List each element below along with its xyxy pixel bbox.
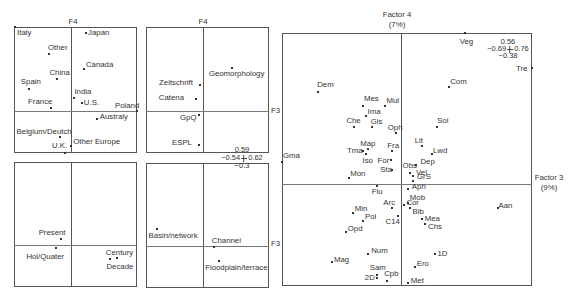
data-point-label: Basin/network	[149, 232, 198, 240]
scatter-panel-countries: ItalyOtherChinaSpainFranceJapanCanadaInd…	[14, 27, 137, 153]
data-point-marker	[531, 67, 533, 69]
data-point-label: Che	[346, 117, 360, 125]
data-point-label: Geomorphology	[209, 70, 264, 78]
data-point-marker	[281, 161, 283, 163]
data-point-label: Belgium/Deutch	[17, 129, 72, 137]
data-point-label: Spain	[21, 78, 41, 86]
data-point-marker	[213, 246, 215, 248]
data-point-marker	[109, 258, 111, 260]
data-point-marker	[367, 148, 369, 150]
data-point-marker	[464, 32, 466, 34]
data-point-marker	[412, 175, 414, 177]
data-point-marker	[317, 91, 319, 93]
data-point-marker	[391, 150, 393, 152]
data-point-label: Oph	[388, 124, 403, 132]
data-point-label: Com	[450, 78, 466, 86]
data-point-label: U.S.	[84, 100, 99, 108]
y-axis-line	[203, 27, 204, 153]
data-point-marker	[345, 231, 347, 233]
data-point-label: Soi	[437, 117, 448, 125]
range-bottom: −0.3	[221, 162, 263, 170]
data-point-marker	[403, 204, 405, 206]
data-point-marker	[199, 84, 201, 86]
data-point-marker	[407, 188, 409, 190]
data-point-label: 1D	[437, 250, 447, 258]
data-point-label: Poland	[115, 102, 139, 110]
data-point-label: Zeitschrift	[159, 79, 193, 87]
data-point-label: Catena	[159, 94, 184, 102]
data-point-label: Bib	[413, 208, 424, 216]
data-point-label: Veg	[460, 38, 473, 46]
data-point-marker	[395, 132, 397, 134]
data-point-label: Japan	[88, 29, 109, 37]
data-point-label: Mes	[364, 95, 379, 103]
data-point-marker	[60, 238, 62, 240]
data-point-marker	[198, 114, 200, 116]
y-axis-line	[203, 163, 204, 288]
data-point-label: GrS	[417, 173, 431, 181]
data-point-label: Iso	[362, 157, 372, 165]
data-point-label: Present	[39, 229, 66, 237]
data-point-marker	[414, 266, 416, 268]
data-point-label: Italy	[17, 29, 31, 37]
data-point-label: Gma	[283, 152, 300, 160]
y-axis-line	[71, 162, 72, 287]
data-point-marker	[376, 274, 378, 276]
x-axis-line	[146, 246, 269, 247]
x-axis-line	[14, 245, 137, 246]
data-point-marker	[136, 110, 138, 112]
data-point-label: Other Europe	[73, 138, 120, 146]
data-point-marker	[156, 228, 158, 230]
data-point-marker	[96, 118, 98, 120]
axis-title-f4: F4	[68, 18, 77, 26]
data-point-marker	[85, 32, 87, 34]
data-point-label: Mon	[350, 170, 365, 178]
data-point-marker	[83, 68, 85, 70]
data-point-marker	[384, 105, 386, 107]
data-point-marker	[28, 88, 30, 90]
origin-cross-icon	[507, 46, 513, 53]
data-point-marker	[352, 212, 354, 214]
data-point-label: Canada	[86, 62, 113, 70]
y-axis-line	[401, 33, 402, 286]
scatter-panel-keywords: VegTreComSoiDemMesMulImaCheGisOphMapFraT…	[282, 33, 532, 286]
data-point-label: Mag	[334, 256, 349, 264]
axis-variance-factor3: (9%)	[541, 184, 557, 192]
data-point-label: Opd	[348, 225, 363, 233]
data-point-label: Lit	[415, 137, 423, 145]
data-point-label: Sta	[380, 166, 392, 174]
data-point-marker	[64, 152, 66, 154]
data-point-label: U.K.	[52, 142, 67, 150]
data-point-label: India	[74, 88, 91, 96]
factor-analysis-figure: ItalyOtherChinaSpainFranceJapanCanadaInd…	[0, 0, 574, 301]
data-point-marker	[434, 253, 436, 255]
data-point-marker	[376, 277, 378, 279]
data-point-marker	[390, 159, 392, 161]
data-point-label: Channel	[212, 237, 241, 245]
data-point-marker	[424, 223, 426, 225]
data-point-marker	[14, 26, 16, 28]
data-point-marker	[436, 126, 438, 128]
range-row: −0.540.62	[221, 154, 263, 162]
data-point-marker	[73, 97, 75, 99]
data-point-label: Fra	[387, 143, 399, 151]
data-point-marker	[407, 282, 409, 284]
data-point-marker	[50, 107, 52, 109]
data-point-label: Met	[411, 277, 424, 285]
data-point-marker	[70, 145, 72, 147]
data-point-label: Num	[371, 247, 387, 255]
axis-range-legend-large: 0.56 −0.690.76 −0.38	[487, 38, 529, 59]
axis-title-factor4: Factor 4	[383, 11, 412, 19]
data-point-label: Chs	[428, 223, 442, 231]
data-point-label: Pol	[365, 213, 376, 221]
data-point-marker	[448, 86, 450, 88]
axis-title-f4: F4	[198, 18, 207, 26]
range-row: −0.690.76	[487, 45, 529, 52]
data-point-marker	[218, 260, 220, 262]
data-point-marker	[409, 207, 411, 209]
data-point-label: C14	[386, 218, 400, 226]
scatter-panel-spatial-scale: Basin/networkChannelFloodplain/terrace	[146, 163, 269, 288]
data-point-label: GpQ	[180, 114, 196, 122]
axis-title-f3: F3	[271, 107, 280, 115]
data-point-marker	[59, 136, 61, 138]
